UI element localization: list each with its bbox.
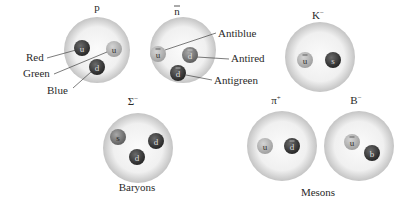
color-annotations: RedGreenBlueAntiblueAntiredAntigreen: [23, 27, 265, 96]
hadron-sphere: [324, 111, 394, 181]
hadron-sphere: [103, 113, 173, 183]
quark-symbol: s: [116, 133, 120, 143]
hadron-label: p: [94, 1, 100, 13]
hadron-label: B−: [350, 94, 361, 106]
quark-d: d: [148, 133, 164, 149]
quark-symbol: d: [290, 142, 295, 152]
quark-u: u: [106, 41, 122, 57]
quark-anti-d: d: [284, 138, 300, 154]
hadron-sphere: [285, 22, 355, 92]
hadron-piplus: π+ud: [247, 94, 317, 181]
annotation-label: Blue: [47, 84, 68, 96]
annotation-label: Red: [26, 51, 44, 63]
group-label-baryons: Baryons: [119, 181, 156, 193]
hadron-p: puud: [64, 1, 130, 83]
hadron-label: π+: [271, 94, 281, 106]
hadron-sigmaminus: Σ−sdd: [103, 95, 173, 183]
quark-d: d: [129, 149, 145, 165]
hadron-kminus: K−us: [285, 9, 355, 92]
group-labels: BaryonsMesons: [119, 181, 335, 198]
quark-anti-u: u: [344, 134, 360, 150]
quark-symbol: b: [370, 149, 375, 159]
quark-anti-d: d: [182, 47, 198, 63]
quark-symbol: u: [80, 44, 85, 54]
quark-anti-u: u: [297, 52, 313, 68]
quark-symbol: u: [112, 45, 117, 55]
hadron-label: K−: [312, 9, 324, 21]
quark-b: b: [364, 145, 380, 161]
quark-s: s: [110, 129, 126, 145]
quark-diagram: puudnuddK−usΣ−sddπ+udB−ub RedGreenBlueAn…: [0, 0, 411, 211]
annotation-label: Antigreen: [214, 74, 258, 86]
quark-symbol: u: [263, 142, 268, 152]
quark-s: s: [325, 52, 341, 68]
hadron-bminus: B−ub: [324, 94, 394, 181]
quark-symbol: u: [350, 138, 355, 148]
group-label-mesons: Mesons: [301, 186, 335, 198]
annotation-label: Antiblue: [218, 27, 257, 39]
quark-symbol: d: [95, 63, 100, 73]
hadron-label: Σ−: [128, 95, 138, 107]
annotation-label: Green: [23, 67, 50, 79]
quark-symbol: d: [188, 51, 193, 61]
quark-anti-u: u: [150, 46, 166, 62]
quark-symbol: d: [135, 153, 140, 163]
quark-symbol: s: [331, 56, 335, 66]
annotation-label: Antired: [231, 52, 265, 64]
quark-symbol: u: [303, 56, 308, 66]
quark-anti-d: d: [170, 65, 186, 81]
quark-u: u: [257, 138, 273, 154]
hadron-label: n: [174, 5, 180, 17]
quark-u: u: [74, 40, 90, 56]
quark-d: d: [89, 59, 105, 75]
quark-symbol: d: [154, 137, 159, 147]
quark-symbol: u: [156, 50, 161, 60]
quark-symbol: d: [176, 69, 181, 79]
